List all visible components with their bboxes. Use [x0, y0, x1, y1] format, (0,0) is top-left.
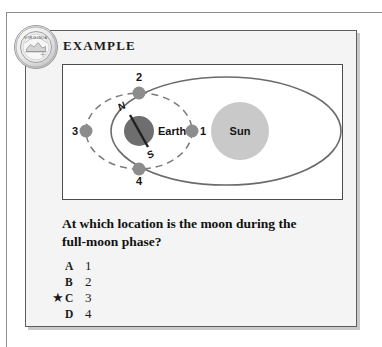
answer-choice-b[interactable]: B 2	[52, 274, 212, 290]
correct-answer-star-c: ★	[52, 291, 65, 304]
answer-choice-list: A 1 B 2 ★ C 3 D 4	[52, 258, 212, 322]
moon-label-1: 1	[200, 125, 206, 137]
choice-letter-b: B	[65, 276, 85, 288]
virginia-seal-icon: VIRGINIA	[14, 25, 58, 69]
choice-text-d: 4	[85, 306, 92, 322]
moon-dot-4	[133, 163, 146, 176]
choice-text-c: 3	[85, 290, 92, 306]
moon-label-2: 2	[136, 71, 142, 83]
sun-label: Sun	[230, 125, 251, 137]
page-title: EXAMPLE	[63, 38, 136, 54]
page-canvas: VIRGINIA EXAMPLE Sun N S Earth 1	[0, 0, 382, 347]
answer-choice-c[interactable]: ★ C 3	[52, 290, 212, 306]
south-pole-label: S	[145, 148, 156, 161]
page-left-rule	[6, 12, 7, 347]
choice-text-b: 2	[85, 274, 92, 290]
choice-letter-c: C	[65, 292, 85, 304]
moon-label-4: 4	[136, 175, 143, 187]
choice-letter-d: D	[65, 308, 85, 320]
answer-choice-a[interactable]: A 1	[52, 258, 212, 274]
diagram-frame: Sun N S Earth 1 2 3 4	[62, 64, 343, 200]
question-text: At which location is the moon during the…	[62, 215, 312, 251]
north-pole-label: N	[116, 99, 128, 112]
moon-label-3: 3	[72, 125, 78, 137]
earth-label: Earth	[158, 125, 186, 137]
svg-text:VIRGINIA: VIRGINIA	[24, 35, 48, 40]
page-top-rule	[6, 12, 382, 13]
choice-text-a: 1	[85, 258, 92, 274]
moon-dot-1	[186, 125, 199, 138]
choice-letter-a: A	[65, 260, 85, 272]
answer-choice-d[interactable]: D 4	[52, 306, 212, 322]
moon-dot-2	[133, 87, 146, 100]
moon-dot-3	[80, 125, 93, 138]
